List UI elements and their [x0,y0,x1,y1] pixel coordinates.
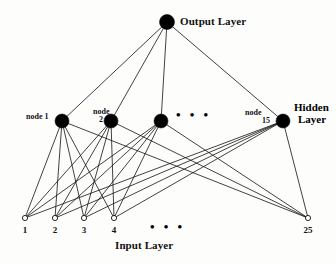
edge [62,22,167,121]
input-node-25-label: 25 [301,226,315,235]
input-node-3 [81,215,86,220]
edge [114,121,283,218]
edge [25,121,111,218]
hidden-node-15 [276,114,290,128]
hidden-node-15-label-line2: 15 [262,117,270,125]
output-node [160,15,175,30]
neural-network-figure: Output Layer node 1 node 2 node 15 • • •… [0,0,336,264]
edge [161,22,167,121]
input-layer-label: Input Layer [115,240,173,251]
edge [62,121,84,218]
edge [62,121,308,218]
input-node-3-label: 3 [77,226,91,235]
hidden-layer-ellipsis: • • • [176,108,211,121]
input-layer-ellipsis: • • • [150,220,185,233]
input-node-4 [111,215,116,220]
edge [25,121,161,218]
input-node-2 [52,215,57,220]
edge [55,121,283,218]
input-node-25 [305,215,310,220]
edge [283,121,308,218]
edge [84,121,161,218]
input-node-2-label: 2 [48,226,62,235]
hidden-node-1-label: node 1 [26,113,48,121]
hidden-node-15-label-line1: node [245,109,261,117]
hidden-node-2 [104,114,118,128]
edge [55,121,161,218]
edge [111,22,167,121]
hidden-node-1 [55,114,69,128]
output-layer-label: Output Layer [180,16,246,27]
input-node-4-label: 4 [107,226,121,235]
hidden-node-3 [154,114,168,128]
hidden-layer-title-line1: Hidden [294,101,329,114]
hidden-layer-title-line2: Layer [298,113,326,126]
hidden-node-2-label-line2: 2 [99,116,103,124]
input-node-1 [22,215,27,220]
input-node-1-label: 1 [18,226,32,235]
